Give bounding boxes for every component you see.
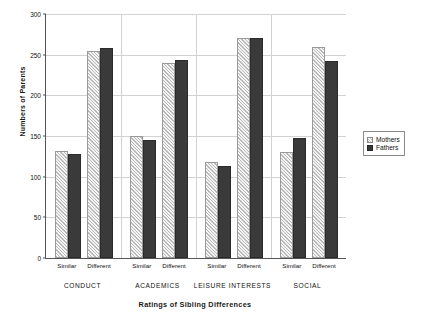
x-axis-title: Ratings of Sibling Differences	[45, 300, 345, 309]
legend-item-fathers: Fathers	[367, 144, 400, 151]
y-axis-title: Numbers of Parents	[19, 42, 26, 162]
bar-fathers-social-different	[325, 61, 338, 258]
bar-mothers-academics-different	[162, 63, 175, 258]
x-sub-label: Different	[294, 262, 354, 269]
bar-mothers-conduct-different	[87, 51, 100, 258]
bar-chart: Numbers of Parents 050100150200250300 Si…	[0, 0, 434, 322]
bar-mothers-social-different	[312, 47, 325, 258]
legend-label-fathers: Fathers	[376, 144, 398, 151]
bar-mothers-leisure-interests-different	[237, 38, 250, 258]
bar-fathers-academics-different	[175, 60, 188, 258]
bar-fathers-leisure-interests-different	[250, 38, 263, 258]
bar-mothers-academics-similar	[130, 136, 143, 258]
bar-mothers-social-similar	[280, 152, 293, 258]
y-tick-label: 0	[37, 255, 41, 262]
legend-item-mothers: Mothers	[367, 136, 400, 143]
bar-layer	[46, 14, 346, 258]
bar-fathers-leisure-interests-similar	[218, 166, 231, 258]
y-tick-label: 100	[30, 173, 41, 180]
bar-fathers-conduct-different	[100, 48, 113, 258]
y-tick-label: 200	[30, 92, 41, 99]
bar-fathers-academics-similar	[143, 140, 156, 258]
bar-mothers-leisure-interests-similar	[205, 162, 218, 258]
legend-swatch-fathers-icon	[367, 145, 373, 151]
x-group-label: SOCIAL	[248, 282, 368, 289]
bar-fathers-conduct-similar	[68, 154, 81, 258]
y-tick-label: 150	[30, 133, 41, 140]
legend-swatch-mothers-icon	[367, 137, 373, 143]
y-tick-label: 50	[34, 214, 41, 221]
y-tick-label: 300	[30, 11, 41, 18]
legend: Mothers Fathers	[363, 131, 405, 156]
legend-label-mothers: Mothers	[376, 136, 400, 143]
y-tick-label: 250	[30, 51, 41, 58]
plot-area: 050100150200250300	[45, 14, 346, 259]
bar-mothers-conduct-similar	[55, 151, 68, 258]
bar-fathers-social-similar	[293, 138, 306, 258]
